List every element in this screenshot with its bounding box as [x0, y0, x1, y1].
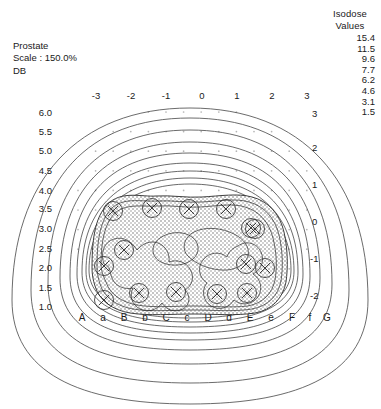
calculation-grid-dot: [306, 170, 308, 172]
calculation-grid-dot: [95, 209, 97, 211]
calculation-grid-dot: [183, 111, 185, 113]
calculation-grid-dot: [148, 131, 150, 133]
calculation-grid-dot: [95, 170, 97, 172]
isodose-contour-plot: [0, 0, 381, 409]
calculation-grid-dot: [288, 268, 290, 270]
calculation-grid-dot: [218, 150, 220, 152]
calculation-grid-dot: [183, 190, 185, 192]
calculation-grid-dot: [165, 150, 167, 152]
calculation-grid-dot: [271, 170, 273, 172]
calculation-grid-dot: [165, 111, 167, 113]
calculation-grid-dot: [200, 131, 202, 133]
calculation-grid-dot: [112, 131, 114, 133]
calculation-grid-dot: [112, 170, 114, 172]
calculation-grid-dot: [95, 150, 97, 152]
calculation-grid-dot: [165, 170, 167, 172]
calculation-grid-dot: [200, 150, 202, 152]
calculation-grid-dot: [200, 190, 202, 192]
calculation-grid-dot: [130, 170, 132, 172]
calculation-grid-dot: [148, 150, 150, 152]
calculation-grid-dot: [288, 190, 290, 192]
calculation-grid-dot: [77, 190, 79, 192]
calculation-grid-dot: [218, 111, 220, 113]
calculation-grid-dot: [183, 131, 185, 133]
calculation-grid-dot: [288, 170, 290, 172]
calculation-grid-dot: [218, 190, 220, 192]
calculation-grid-dot: [148, 170, 150, 172]
calculation-grid-dot: [288, 229, 290, 231]
calculation-grid-dot: [253, 150, 255, 152]
calculation-grid-dot: [112, 190, 114, 192]
calculation-grid-dot: [200, 111, 202, 113]
calculation-grid-dot: [306, 190, 308, 192]
calculation-grid-dot: [253, 190, 255, 192]
calculation-grid-dot: [183, 150, 185, 152]
calculation-grid-dot: [236, 170, 238, 172]
calculation-grid-dot: [271, 131, 273, 133]
calculation-grid-dot: [306, 229, 308, 231]
calculation-grid-dot: [236, 150, 238, 152]
calculation-grid-dot: [253, 131, 255, 133]
calculation-grid-dot: [306, 248, 308, 250]
calculation-grid-dot: [130, 131, 132, 133]
calculation-grid-dot: [77, 209, 79, 211]
calculation-grid-dot: [288, 150, 290, 152]
calculation-grid-dot: [165, 190, 167, 192]
calculation-grid-dot: [253, 170, 255, 172]
isodose-plot-page: Isodose Values 15.4 11.5 9.6 7.7 6.2 4.6…: [0, 0, 381, 409]
calculation-grid-dot: [218, 170, 220, 172]
calculation-grid-dot: [77, 229, 79, 231]
calculation-grid-dot: [236, 131, 238, 133]
calculation-grid-dot: [112, 150, 114, 152]
